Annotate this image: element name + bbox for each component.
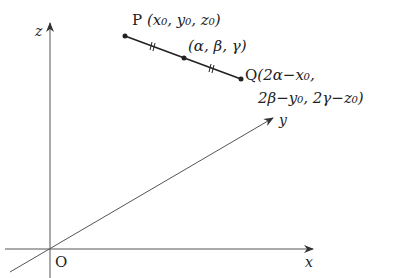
point-q-coords-line1: (2α−x₀, [257, 66, 314, 84]
y-axis-label: y [279, 113, 287, 127]
point-q [239, 77, 244, 82]
midpoint-label: (α, β, γ) [188, 39, 247, 54]
point-q-name: Q [245, 66, 257, 84]
point-p-coords: (x₀, y₀, z₀) [147, 11, 221, 29]
point-p-name: P [132, 11, 142, 29]
x-axis-label: x [305, 255, 313, 269]
point-p [123, 34, 128, 39]
z-axis-label: z [35, 24, 42, 38]
point-q-coords-line2: 2β−y₀, 2γ−z₀) [258, 91, 364, 106]
point-p-label: P (x₀, y₀, z₀) [132, 13, 221, 28]
point-midpoint [182, 56, 187, 61]
point-q-label: Q(2α−x₀, [245, 68, 315, 83]
diagram-canvas: z y x O P (x₀, y₀, z₀) (α, β, γ) Q(2α−x₀… [0, 0, 394, 278]
origin-label: O [55, 255, 67, 270]
